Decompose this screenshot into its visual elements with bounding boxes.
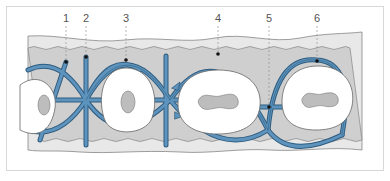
label-4: 4 [215,12,221,24]
label-1: 1 [63,12,69,24]
label-3: 3 [123,12,129,24]
pulp-1 [38,95,50,115]
pulp-4 [302,93,338,108]
label-6: 6 [314,12,320,24]
pulp-2 [121,91,135,113]
pulp-3 [198,94,238,109]
fiber-diagram: 1 2 3 4 5 6 [0,0,390,181]
labels: 1 2 3 4 5 6 [63,12,320,24]
label-2: 2 [83,12,89,24]
label-5: 5 [266,12,272,24]
